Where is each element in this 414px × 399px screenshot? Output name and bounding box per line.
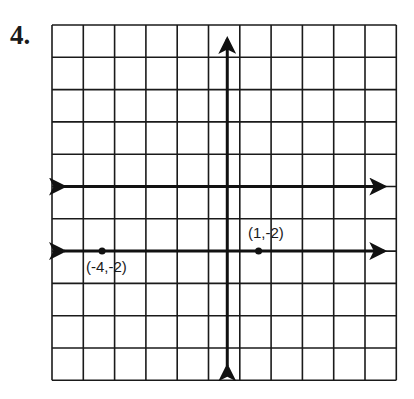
coordinate-grid [0, 0, 414, 399]
point-marker [255, 248, 262, 255]
point-label-neg4-neg2: (-4,-2) [86, 258, 127, 275]
point-marker [99, 248, 106, 255]
point-label-1-neg2: (1,-2) [248, 224, 284, 241]
